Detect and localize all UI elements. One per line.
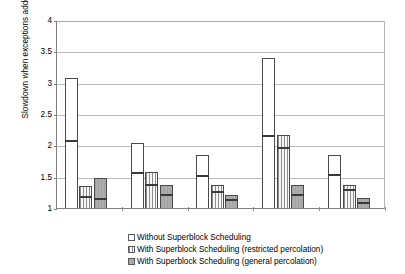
legend-item: Without Superblock Scheduling [128, 231, 388, 243]
legend-item-label: With Superblock Scheduling (restricted p… [137, 245, 323, 254]
bar-group [123, 21, 189, 208]
y-axis-tick-label: 1.5 [18, 174, 52, 182]
bar [65, 78, 78, 208]
bar [343, 185, 356, 208]
bar-segment-divider [291, 194, 304, 196]
bar-segment-divider [262, 135, 275, 137]
legend-swatch-icon [128, 234, 135, 241]
bar [262, 58, 275, 208]
bar [291, 185, 304, 208]
bar-chart: Slowdown when exceptions added 43.532.52… [0, 0, 405, 274]
bar-segment-divider [328, 174, 341, 176]
legend-swatch-icon [128, 258, 135, 265]
bar-segment-divider [94, 198, 107, 200]
bar-group [57, 21, 123, 208]
bar-segment-divider [225, 199, 238, 201]
bar-segment-divider [160, 194, 173, 196]
bar [277, 135, 290, 208]
bar-segment-divider [343, 189, 356, 191]
bar [328, 155, 341, 208]
bar-group [254, 21, 320, 208]
legend-item: With Superblock Scheduling (restricted p… [128, 243, 388, 255]
legend-item-label: With Superblock Scheduling (general perc… [137, 257, 317, 266]
y-axis-tick-label: 3 [18, 80, 52, 88]
y-axis-tick-label: 2.5 [18, 111, 52, 119]
plot-inner: 43.532.521.51 [57, 21, 384, 208]
y-axis-tick-label: 1 [18, 205, 52, 213]
bar [131, 143, 144, 208]
bar-group [189, 21, 255, 208]
bar-segment-divider [211, 191, 224, 193]
x-axis-tick-mark [385, 207, 386, 211]
bar [196, 155, 209, 208]
y-axis-tick-label: 2 [18, 142, 52, 150]
chart-legend: Without Superblock Scheduling With Super… [128, 231, 388, 267]
legend-item: With Superblock Scheduling (general perc… [128, 255, 388, 267]
bar-segment-divider [196, 175, 209, 177]
bar-segment-divider [131, 172, 144, 174]
plot-area: 43.532.521.51 [56, 21, 385, 209]
y-axis-tick-label: 4 [18, 17, 52, 25]
y-axis-tick-mark [54, 209, 57, 210]
bar [211, 185, 224, 208]
bar-segment-divider [357, 202, 370, 204]
bar-segment-divider [145, 184, 158, 186]
bar-segment-divider [65, 140, 78, 142]
bar [94, 178, 107, 208]
bar [160, 185, 173, 208]
bar [357, 198, 370, 208]
bar [145, 172, 158, 208]
bar [225, 195, 238, 208]
y-axis-tick-label: 3.5 [18, 48, 52, 56]
bar-group [320, 21, 386, 208]
legend-item-label: Without Superblock Scheduling [137, 233, 251, 242]
bar-segment-divider [79, 196, 92, 198]
legend-swatch-icon [128, 246, 135, 253]
bar-segment-divider [277, 147, 290, 149]
bar [79, 186, 92, 208]
